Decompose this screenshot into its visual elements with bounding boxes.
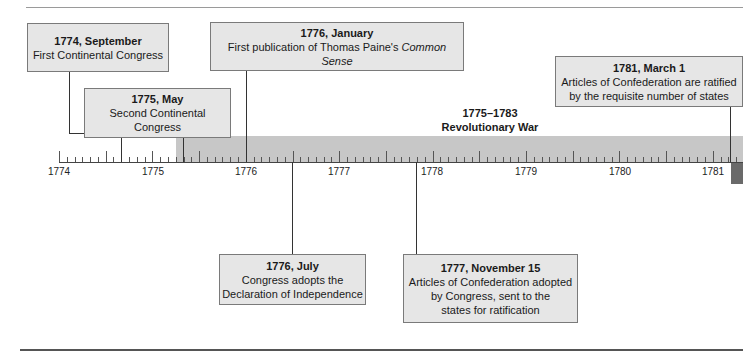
month-tick — [736, 157, 737, 162]
month-tick — [378, 157, 379, 162]
month-tick — [308, 157, 309, 162]
event-description-2: by Congress, sent to the — [404, 289, 577, 303]
month-tick — [67, 157, 68, 162]
month-tick — [721, 157, 722, 162]
month-tick — [518, 157, 519, 162]
month-tick — [106, 151, 107, 162]
year-tick — [526, 151, 527, 162]
month-tick — [238, 157, 239, 162]
month-tick — [651, 157, 652, 162]
event-box-1776-january: 1776, January First publication of Thoma… — [210, 22, 464, 71]
month-tick — [145, 157, 146, 162]
month-tick — [355, 157, 356, 162]
month-tick — [542, 157, 543, 162]
connector-1776-jan — [246, 71, 247, 162]
month-tick — [565, 157, 566, 162]
month-tick — [347, 157, 348, 162]
year-label-1779: 1779 — [515, 166, 537, 177]
year-label-1774: 1774 — [48, 166, 70, 177]
month-tick — [487, 157, 488, 162]
month-tick — [495, 157, 496, 162]
year-label-1775: 1775 — [142, 166, 164, 177]
month-tick — [394, 157, 395, 162]
month-tick — [277, 157, 278, 162]
event-box-1781-march: 1781, March 1 Articles of Confederation … — [555, 56, 743, 107]
event-date: 1776, January — [211, 26, 463, 40]
top-rule — [26, 7, 743, 8]
month-tick — [612, 157, 613, 162]
event-description: Congress adopts the — [220, 273, 365, 287]
month-tick — [472, 157, 473, 162]
event-description-2: Declaration of Independence — [220, 287, 365, 301]
year-label-1781: 1781 — [702, 166, 724, 177]
event-description: Articles of Confederation adopted — [404, 275, 577, 289]
month-tick — [448, 157, 449, 162]
year-tick — [713, 151, 714, 162]
month-tick — [316, 157, 317, 162]
war-name: Revolutionary War — [420, 120, 560, 134]
month-tick — [643, 157, 644, 162]
month-tick — [456, 157, 457, 162]
month-tick — [176, 157, 177, 162]
month-tick — [222, 157, 223, 162]
event-description-2: by the requisite number of states — [556, 89, 742, 103]
month-tick — [534, 157, 535, 162]
month-tick — [300, 157, 301, 162]
month-tick — [635, 157, 636, 162]
month-tick — [269, 157, 270, 162]
month-tick — [479, 151, 480, 162]
event-date: 1781, March 1 — [556, 61, 742, 75]
year-label-1780: 1780 — [609, 166, 631, 177]
month-tick — [588, 157, 589, 162]
bottom-rule — [20, 349, 743, 351]
event-box-1777-november: 1777, November 15 Articles of Confederat… — [403, 254, 578, 323]
month-tick — [98, 157, 99, 162]
desc-text: First publication of Thomas Paine's — [228, 41, 402, 53]
year-tick — [339, 151, 340, 162]
month-tick — [90, 157, 91, 162]
month-tick — [604, 157, 605, 162]
event-description: Articles of Confederation are ratified — [556, 75, 742, 89]
month-tick — [261, 157, 262, 162]
month-tick — [557, 157, 558, 162]
war-date-range: 1775–1783 — [420, 106, 560, 120]
month-tick — [75, 157, 76, 162]
event-box-1775-may: 1775, May Second Continental Congress — [84, 88, 231, 138]
month-tick — [184, 157, 185, 162]
month-tick — [549, 157, 550, 162]
month-tick — [113, 157, 114, 162]
year-tick — [152, 151, 153, 162]
month-tick — [580, 157, 581, 162]
connector-1774 — [69, 72, 70, 134]
month-tick — [573, 151, 574, 162]
month-tick — [627, 157, 628, 162]
month-tick — [285, 157, 286, 162]
month-tick — [168, 157, 169, 162]
revolutionary-war-bar-end — [731, 162, 743, 184]
month-tick — [417, 157, 418, 162]
connector-1781 — [730, 107, 731, 162]
month-tick — [82, 157, 83, 162]
month-tick — [682, 157, 683, 162]
event-date: 1775, May — [85, 92, 230, 106]
event-box-1776-july: 1776, July Congress adopts the Declarati… — [219, 254, 366, 305]
month-tick — [331, 157, 332, 162]
connector-1775 — [183, 138, 184, 162]
month-tick — [191, 157, 192, 162]
event-description: First publication of Thomas Paine's Comm… — [211, 40, 463, 68]
month-tick — [510, 157, 511, 162]
year-tick — [619, 151, 620, 162]
month-tick — [293, 151, 294, 162]
event-date: 1776, July — [220, 259, 365, 273]
revolutionary-war-label: 1775–1783 Revolutionary War — [420, 106, 560, 134]
month-tick — [386, 151, 387, 162]
year-tick — [59, 151, 60, 162]
month-tick — [440, 157, 441, 162]
event-description-3: states for ratification — [404, 303, 577, 317]
month-tick — [728, 157, 729, 162]
month-tick — [207, 157, 208, 162]
month-tick — [129, 157, 130, 162]
month-tick — [503, 157, 504, 162]
event-box-1774-september: 1774, September First Continental Congre… — [27, 23, 169, 72]
month-tick — [697, 157, 698, 162]
